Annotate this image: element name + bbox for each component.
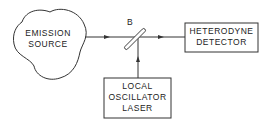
arrow-right-icon [158, 35, 164, 39]
beam-splitter-label: B [124, 17, 136, 28]
arrow-right-icon [104, 35, 110, 39]
arrow-up-icon [136, 56, 140, 62]
heterodyne-detector-label: HETERODYNE DETECTOR [185, 26, 258, 48]
beam-splitter-mirror [124, 28, 146, 50]
local-oscillator-label: LOCAL OSCILLATOR LASER [104, 81, 171, 114]
emission-source-label: EMISSION SOURCE [17, 28, 79, 50]
